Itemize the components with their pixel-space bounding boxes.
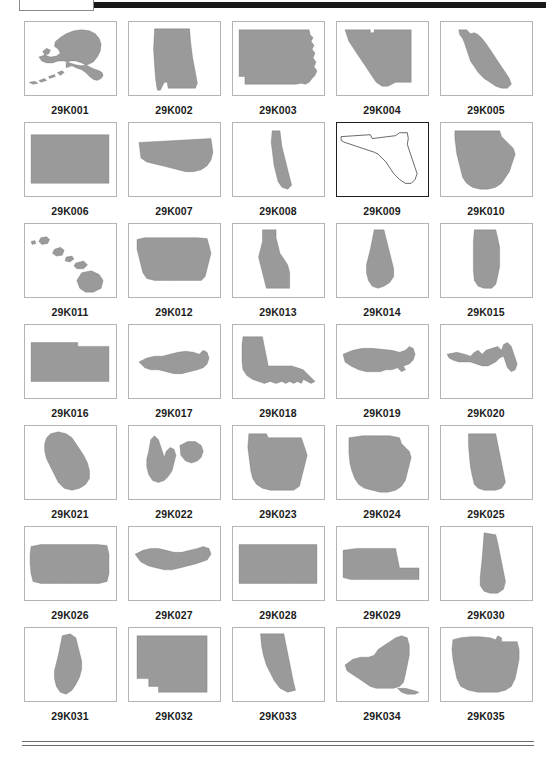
state-shape-path [271, 131, 291, 189]
state-code-label: 29K011 [52, 306, 89, 318]
state-thumbnail-maryland[interactable] [440, 324, 533, 399]
state-shape-path [258, 230, 289, 288]
state-code-label: 29K003 [259, 104, 296, 116]
state-cell-29K008[interactable]: 29K008 [226, 122, 330, 223]
state-thumbnail-alaska[interactable] [24, 21, 117, 96]
state-thumbnail-nevada[interactable] [232, 627, 325, 702]
state-cell-29K006[interactable]: 29K006 [18, 122, 122, 223]
state-cell-29K011[interactable]: 29K011 [18, 223, 122, 324]
state-thumbnail-north-dakota[interactable] [232, 526, 325, 601]
state-cell-29K002[interactable]: 29K002 [122, 21, 226, 122]
state-code-label: 29K020 [467, 407, 504, 419]
state-code-label: 29K013 [259, 306, 296, 318]
state-cell-29K003[interactable]: 29K003 [226, 21, 330, 122]
state-thumbnail-arkansas[interactable] [232, 21, 325, 96]
state-thumbnail-new-hampshire[interactable] [440, 526, 533, 601]
grid-row: 29K02629K02729K02829K02929K030 [18, 526, 538, 627]
state-shape-path [29, 30, 103, 85]
state-thumbnail-mississippi[interactable] [440, 425, 533, 500]
state-silhouette-grid: 29K00129K00229K00329K00429K00529K00629K0… [18, 21, 538, 728]
state-thumbnail-idaho[interactable] [232, 223, 325, 298]
state-thumbnail-alabama[interactable] [128, 21, 221, 96]
state-shape-path [137, 238, 211, 281]
state-shape-path [31, 343, 109, 382]
state-cell-29K024[interactable]: 29K024 [330, 425, 434, 526]
state-shape-path [345, 636, 419, 694]
state-shape-path [239, 30, 317, 85]
state-thumbnail-hawaii[interactable] [24, 223, 117, 298]
state-code-label: 29K015 [467, 306, 504, 318]
state-shape-path [468, 434, 505, 490]
state-code-label: 29K016 [51, 407, 88, 419]
state-cell-29K015[interactable]: 29K015 [434, 223, 538, 324]
state-thumbnail-massachusetts[interactable] [336, 324, 429, 399]
state-code-label: 29K010 [467, 205, 504, 217]
state-cell-29K035[interactable]: 29K035 [434, 627, 538, 728]
header-rule [93, 2, 546, 8]
state-thumbnail-missouri[interactable] [336, 425, 429, 500]
state-cell-29K007[interactable]: 29K007 [122, 122, 226, 223]
state-thumbnail-florida[interactable] [336, 122, 429, 197]
state-thumbnail-iowa[interactable] [128, 223, 221, 298]
state-cell-29K034[interactable]: 29K034 [330, 627, 434, 728]
state-shape-path [153, 29, 197, 90]
state-thumbnail-new-mexico[interactable] [128, 627, 221, 702]
state-thumbnail-nebraska[interactable] [336, 526, 429, 601]
state-thumbnail-minnesota[interactable] [232, 425, 325, 500]
state-cell-29K001[interactable]: 29K001 [18, 21, 122, 122]
state-cell-29K018[interactable]: 29K018 [226, 324, 330, 425]
state-thumbnail-california[interactable] [440, 21, 533, 96]
state-code-label: 29K034 [363, 710, 400, 722]
state-cell-29K016[interactable]: 29K016 [18, 324, 122, 425]
state-code-label: 29K002 [155, 104, 192, 116]
state-cell-29K022[interactable]: 29K022 [122, 425, 226, 526]
state-cell-29K033[interactable]: 29K033 [226, 627, 330, 728]
state-thumbnail-arizona[interactable] [336, 21, 429, 96]
state-cell-29K021[interactable]: 29K021 [18, 425, 122, 526]
state-cell-29K031[interactable]: 29K031 [18, 627, 122, 728]
state-cell-29K029[interactable]: 29K029 [330, 526, 434, 627]
state-shape-path [239, 545, 317, 584]
state-cell-29K017[interactable]: 29K017 [122, 324, 226, 425]
state-cell-29K009[interactable]: 29K009 [330, 122, 434, 223]
state-thumbnail-delaware[interactable] [232, 122, 325, 197]
state-code-label: 29K004 [363, 104, 400, 116]
state-thumbnail-indiana[interactable] [440, 223, 533, 298]
state-shape-path [343, 346, 415, 371]
state-cell-29K013[interactable]: 29K013 [226, 223, 330, 324]
state-cell-29K019[interactable]: 29K019 [330, 324, 434, 425]
state-thumbnail-north-carolina[interactable] [128, 526, 221, 601]
state-thumbnail-montana[interactable] [24, 526, 117, 601]
state-cell-29K012[interactable]: 29K012 [122, 223, 226, 324]
state-cell-29K014[interactable]: 29K014 [330, 223, 434, 324]
state-cell-29K027[interactable]: 29K027 [122, 526, 226, 627]
state-thumbnail-new-york[interactable] [336, 627, 429, 702]
state-cell-29K032[interactable]: 29K032 [122, 627, 226, 728]
state-shape-path [454, 131, 514, 189]
state-cell-29K028[interactable]: 29K028 [226, 526, 330, 627]
state-thumbnail-colorado[interactable] [24, 122, 117, 197]
state-thumbnail-maine[interactable] [24, 425, 117, 500]
state-shape-path [345, 30, 411, 86]
state-cell-29K023[interactable]: 29K023 [226, 425, 330, 526]
state-cell-29K025[interactable]: 29K025 [434, 425, 538, 526]
state-cell-29K010[interactable]: 29K010 [434, 122, 538, 223]
page-header [0, 0, 556, 16]
state-thumbnail-illinois[interactable] [336, 223, 429, 298]
state-thumbnail-louisiana[interactable] [232, 324, 325, 399]
state-cell-29K020[interactable]: 29K020 [434, 324, 538, 425]
state-thumbnail-ohio[interactable] [440, 627, 533, 702]
state-thumbnail-georgia[interactable] [440, 122, 533, 197]
page-footer [0, 738, 556, 758]
state-thumbnail-michigan[interactable] [128, 425, 221, 500]
state-cell-29K026[interactable]: 29K026 [18, 526, 122, 627]
state-thumbnail-connecticut[interactable] [128, 122, 221, 197]
state-code-label: 29K025 [467, 508, 504, 520]
state-code-label: 29K019 [363, 407, 400, 419]
state-thumbnail-kansas[interactable] [24, 324, 117, 399]
state-cell-29K030[interactable]: 29K030 [434, 526, 538, 627]
state-cell-29K004[interactable]: 29K004 [330, 21, 434, 122]
state-thumbnail-kentucky[interactable] [128, 324, 221, 399]
state-cell-29K005[interactable]: 29K005 [434, 21, 538, 122]
state-thumbnail-new-jersey[interactable] [24, 627, 117, 702]
